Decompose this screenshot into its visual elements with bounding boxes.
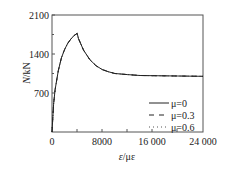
y-tick-700: 700	[34, 88, 49, 99]
y-tick-2100: 2100	[29, 10, 49, 21]
legend-label-mu03: μ=0.3	[171, 110, 195, 121]
y-axis-label: N/kN	[21, 62, 32, 85]
legend-label-mu0: μ=0	[171, 98, 187, 109]
x-tick-8000: 8000	[92, 136, 112, 147]
legend: μ=0 μ=0.3 μ=0.6	[149, 98, 195, 133]
x-tick-16000: 16 000	[138, 136, 166, 147]
x-axis-label: ε/με	[119, 151, 135, 162]
x-tick-0: 0	[50, 136, 55, 147]
legend-label-mu06: μ=0.6	[171, 122, 195, 133]
x-tick-24000: 24 000	[189, 136, 217, 147]
chart: 2100 1400 700 0 8000 16 000 24 000 ε/με …	[0, 0, 230, 169]
y-tick-1400: 1400	[29, 49, 49, 60]
y-axis: 2100 1400 700	[29, 10, 55, 113]
